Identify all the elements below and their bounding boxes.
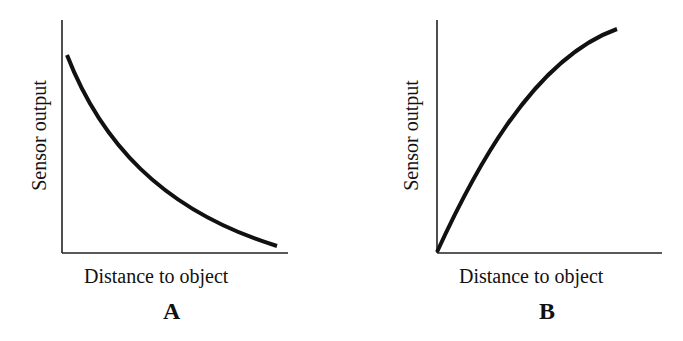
chart-b-plot: [0, 0, 683, 341]
y-axis-label-b: Sensor output: [400, 71, 423, 201]
x-axis-label-b: Distance to object: [459, 265, 603, 288]
chart-panel-b: Sensor output Distance to object B: [0, 0, 683, 341]
growth-curve-b: [437, 29, 617, 252]
panel-tag-b: B: [539, 298, 555, 325]
